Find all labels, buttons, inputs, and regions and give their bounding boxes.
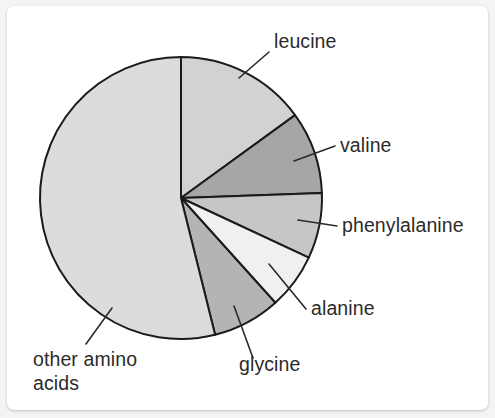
pie-label-other-amino-acids: other aminoacids xyxy=(33,348,137,394)
pie-label-glycine: glycine xyxy=(239,353,300,375)
figure-card: leucinevalinephenylalaninealanineglycine… xyxy=(7,6,488,410)
pie-label-valine: valine xyxy=(340,134,392,156)
leader-line-leucine xyxy=(239,52,269,78)
pie-slice-group xyxy=(40,57,322,339)
pie-label-phenylalanine: phenylalanine xyxy=(342,214,464,236)
figure-container: leucinevalinephenylalaninealanineglycine… xyxy=(0,0,495,418)
pie-chart: leucinevalinephenylalaninealanineglycine… xyxy=(7,6,488,410)
pie-label-leucine: leucine xyxy=(274,30,337,52)
pie-label-alanine: alanine xyxy=(311,297,375,319)
